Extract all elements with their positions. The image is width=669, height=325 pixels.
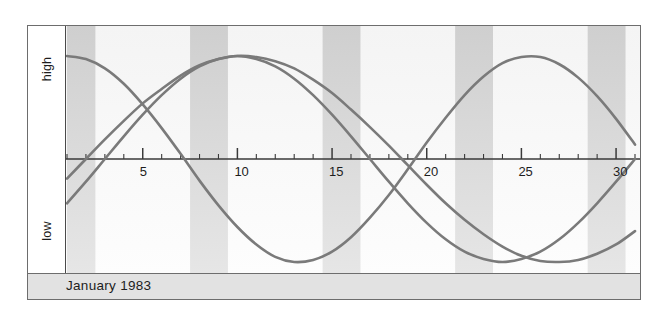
weekend-band <box>588 26 626 273</box>
x-axis-tick-label: 10 <box>234 164 248 179</box>
biorhythm-figure: high low <box>0 0 669 325</box>
x-axis-tick-label: 15 <box>329 164 343 179</box>
caption-month-year: January 1983 <box>66 278 151 293</box>
x-axis-tick-label: 25 <box>518 164 532 179</box>
x-axis-tick-label: 30 <box>613 164 627 179</box>
biorhythm-curves: 51015202530 <box>66 26 640 273</box>
x-axis-tick-label: 5 <box>140 164 147 179</box>
chart-canvas: 51015202530 <box>66 26 640 273</box>
figure-frame: high low <box>27 25 641 300</box>
weekend-band <box>67 26 95 273</box>
x-axis-tick-label: 20 <box>424 164 438 179</box>
plot-area: high low <box>28 26 640 273</box>
y-axis-label-low: low <box>40 212 54 250</box>
weekend-band <box>323 26 361 273</box>
y-axis-label-gutter: high low <box>28 26 66 273</box>
caption-bar: January 1983 <box>28 273 640 299</box>
y-axis-label-high: high <box>40 50 54 88</box>
